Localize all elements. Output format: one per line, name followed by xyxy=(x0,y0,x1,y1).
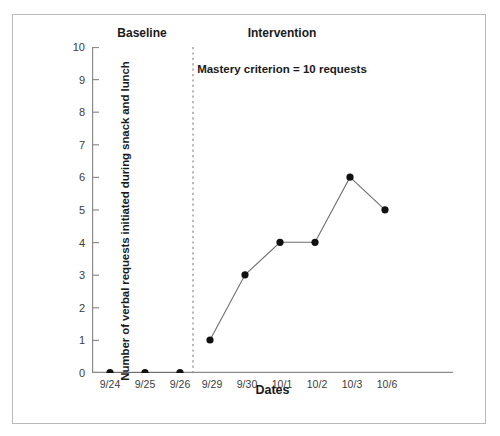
series-line-intervention xyxy=(210,177,385,340)
y-tick-label-6: 6 xyxy=(79,171,85,183)
data-point xyxy=(141,369,148,373)
data-point xyxy=(346,174,353,181)
annotation-mastery-criterion: Mastery criterion = 10 requests xyxy=(197,63,367,75)
y-tick-label-3: 3 xyxy=(79,269,85,281)
data-point xyxy=(381,206,388,213)
y-tick-label-7: 7 xyxy=(79,139,85,151)
data-point xyxy=(206,336,213,343)
y-tick-label-9: 9 xyxy=(79,74,85,86)
chart-canvas xyxy=(92,47,453,373)
data-point xyxy=(106,369,113,373)
y-tick-label-0: 0 xyxy=(79,367,85,379)
data-point xyxy=(311,239,318,246)
y-tick-marks xyxy=(93,48,100,373)
y-tick-label-5: 5 xyxy=(79,204,85,216)
x-axis-title: Dates xyxy=(92,383,453,397)
series-markers xyxy=(106,174,388,373)
y-tick-label-1: 1 xyxy=(79,334,85,346)
figure: 10 9 8 7 6 5 4 3 2 1 0 9/24 9/25 9/26 9/… xyxy=(0,0,500,436)
y-tick-label-4: 4 xyxy=(79,237,85,249)
phase-label-intervention: Intervention xyxy=(248,26,317,40)
y-tick-label-10: 10 xyxy=(73,41,85,53)
data-point xyxy=(176,369,183,373)
y-axis-title: Number of verbal requests initiated duri… xyxy=(114,58,136,384)
y-tick-label-2: 2 xyxy=(79,302,85,314)
data-point xyxy=(241,271,248,278)
data-point xyxy=(276,239,283,246)
y-tick-label-8: 8 xyxy=(79,106,85,118)
plot-area: 10 9 8 7 6 5 4 3 2 1 0 9/24 9/25 9/26 9/… xyxy=(92,47,453,373)
phase-label-baseline: Baseline xyxy=(117,26,166,40)
